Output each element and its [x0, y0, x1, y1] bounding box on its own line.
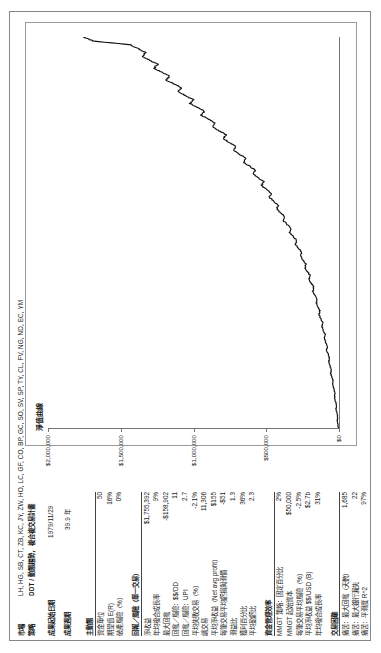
y-axis-label: $500,000 — [262, 435, 269, 513]
y-axis-label: $1,000,000 — [189, 435, 196, 513]
y-axis-tick — [120, 429, 121, 432]
metric-label: 每筆交易平均風險（%） — [294, 570, 303, 636]
section-title: 資金管理效率 — [264, 492, 275, 636]
metric-value: -$158,902 — [161, 492, 168, 564]
metric-label: 每筆交易平均虧損與滑價 — [219, 570, 228, 636]
metric-value: 2.7 — [180, 492, 187, 564]
metric-value: 2.3 — [248, 492, 255, 564]
y-axis-label: $1,500,000 — [116, 435, 123, 513]
metric-label: 回撤／風險：$$/DD — [171, 581, 180, 635]
metric-value: $155 — [209, 492, 216, 564]
metric-value: 2% — [275, 492, 282, 564]
rotated-report-canvas: 市場 LH, HG, SB, CT, ZB, KC, JY, ZW, HO, L… — [11, 12, 371, 642]
y-axis-tick — [339, 429, 340, 432]
metric-value: 9% — [152, 492, 159, 564]
chart-plot-area — [48, 37, 340, 429]
metric-value: 97% — [360, 492, 367, 564]
report-page: 市場 LH, HG, SB, CT, ZB, KC, JY, ZW, HO, L… — [0, 0, 381, 653]
y-axis-tick — [193, 429, 194, 432]
metric-value: 22 — [350, 492, 357, 564]
metric-value: 36% — [238, 492, 245, 564]
metric-label: 淨收益 — [142, 618, 151, 636]
metric-value: 1.3 — [228, 492, 235, 564]
metric-label: 平均淨收益 $$/USD (B) — [304, 571, 313, 635]
metric-value: 16% — [105, 492, 112, 564]
metric-value: -$51 — [219, 492, 226, 564]
period-value: 39.9 年 — [63, 509, 72, 530]
strategy-value: DDT / 動態趨勢，複合複交易計畫 — [27, 503, 36, 595]
metric-label: MMGT 起始資本 — [284, 590, 293, 635]
metric-label: 最大回撤 — [161, 612, 170, 636]
metric-label: 平均盈虧比 — [248, 606, 257, 636]
equity-curve-chart: 淨值曲線 $0$500,000$1,000,000$1,500,000$2,00… — [25, 22, 357, 446]
metric-value: $50,000 — [284, 492, 291, 564]
metric-value: 31% — [313, 492, 320, 564]
metric-label: 總交易 — [200, 618, 209, 636]
chart-title: 淨值曲線 — [34, 403, 44, 431]
metric-value: 11 — [171, 492, 178, 564]
market-label: 市場 — [17, 623, 26, 635]
section-title: 主動態 — [85, 492, 96, 636]
metric-label: MMGT 策略：固定百分比 — [275, 566, 284, 635]
metric-label: 獲利百分比 — [238, 606, 247, 636]
metric-value: -2.5% — [294, 492, 301, 564]
metric-label: 痛苦：最大回撤（天數） — [340, 570, 349, 636]
market-value: LH, HG, SB, CT, ZB, KC, JY, ZW, HO, LC, … — [17, 299, 24, 595]
period-label: 成果週期 — [63, 611, 72, 635]
metric-label: 破產風險（%） — [115, 594, 124, 636]
y-axis-label: $0 — [335, 435, 342, 513]
metric-value: 50 — [96, 492, 103, 564]
metric-value: $1,755,392 — [142, 492, 149, 564]
metric-label: 年均複合成長率 — [152, 594, 161, 636]
metric-label: 年均複合成長率 — [313, 594, 322, 636]
metric-label: 回撤／風險：UPI — [180, 589, 189, 636]
metric-label: 痛苦：最大銀行漏失 — [350, 582, 359, 636]
y-axis-tick — [48, 429, 49, 432]
metric-label: 平均失敗交易（%） — [190, 582, 199, 636]
metric-value: 11,306 — [200, 492, 207, 564]
metric-label: 資金單位 — [96, 612, 105, 636]
equity-curve-line — [48, 37, 339, 428]
section-title: 回報／風險（單一交易） — [131, 492, 142, 636]
y-axis-label: $2,000,000 — [44, 435, 51, 513]
section-title: 交易困難 — [329, 492, 340, 636]
metric-label: 平均淨收益（Net avg profit） — [209, 555, 218, 635]
strategy-label: 策略 — [27, 623, 36, 635]
metric-label: 期望值 E(R) — [105, 603, 114, 636]
metric-label: 痛苦：平滑度 R^2 — [360, 587, 369, 636]
metric-value: $2.7b — [304, 492, 311, 564]
chart-svg-wrapper — [48, 37, 339, 428]
y-axis-tick — [266, 429, 267, 432]
start-date-label: 成果起始日期 — [47, 599, 56, 636]
metric-label: 滑益比 — [228, 618, 237, 636]
